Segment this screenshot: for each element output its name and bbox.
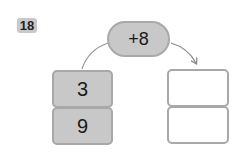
- answer-box-1[interactable]: [167, 69, 229, 107]
- input-box-2: 9: [52, 107, 113, 145]
- number-machine-diagram: 18 +8 3 9: [0, 0, 237, 153]
- operation-oval: +8: [107, 21, 170, 57]
- input-box-1: 3: [52, 70, 113, 108]
- problem-number-badge: 18: [17, 18, 37, 33]
- answer-box-2[interactable]: [167, 106, 229, 144]
